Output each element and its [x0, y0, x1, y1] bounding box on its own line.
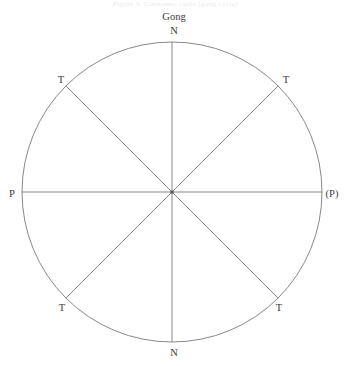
center-hub-dot	[170, 190, 173, 193]
node-label-t-sw: T	[59, 302, 65, 314]
node-label-n-bottom: N	[170, 347, 178, 359]
node-label-n-top: N	[170, 25, 178, 37]
node-label-p-east: (P)	[326, 188, 339, 200]
node-label-t-se: T	[276, 302, 282, 314]
node-label-t-ne: T	[283, 74, 289, 86]
label-gong: Gong	[162, 11, 185, 23]
node-label-t-nw: T	[58, 74, 64, 86]
cycle-diagram-svg	[0, 0, 351, 366]
figure-root: Figure 3. Colotomic cycle (gong cycle) G…	[0, 0, 351, 366]
node-label-p-west: P	[9, 188, 15, 200]
